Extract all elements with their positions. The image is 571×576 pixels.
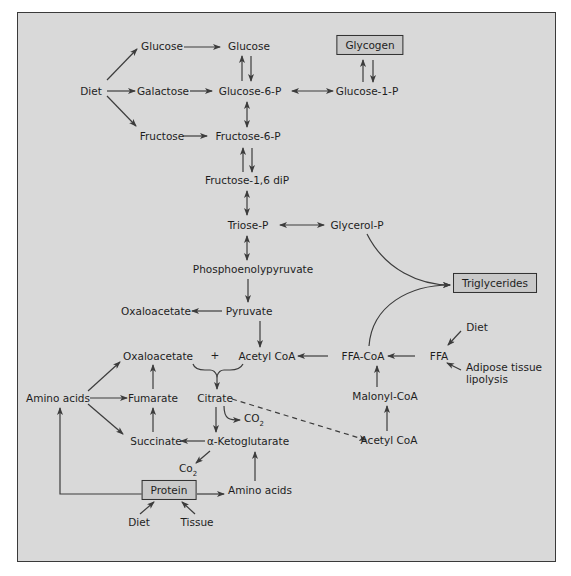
node-triose-p: Triose-P xyxy=(228,219,269,231)
arrow-diet-fructose xyxy=(107,96,136,126)
arrow-aminoacids-succinate xyxy=(88,404,123,434)
node-glycerol-p: Glycerol-P xyxy=(330,219,383,231)
node-fumarate: Fumarate xyxy=(128,392,178,404)
arrow-citrate-co2 xyxy=(224,406,240,420)
node-glycogen: Glycogen xyxy=(336,35,403,55)
node-co2-1: CO2 xyxy=(244,412,264,427)
node-glucose: Glucose xyxy=(228,40,270,52)
node-acetyl-coa-1: Acetyl CoA xyxy=(239,350,296,362)
node-tissue: Tissue xyxy=(180,516,213,528)
node-pyruvate: Pyruvate xyxy=(226,305,273,317)
co2-subscript: 2 xyxy=(193,470,197,478)
node-diet-carb: Diet xyxy=(80,85,102,97)
node-glucose-1-p: Glucose-1-P xyxy=(336,85,398,97)
arrow-diet-glucose xyxy=(107,49,137,80)
arrow-diet-protein xyxy=(140,502,154,514)
node-triglycerides: Triglycerides xyxy=(453,273,537,293)
node-succinate: Succinate xyxy=(130,435,181,447)
node-malonyl-coa: Malonyl-CoA xyxy=(352,390,417,402)
node-oxaloacetate-2: Oxaloacetate xyxy=(123,350,193,362)
arrow-glycerolp-triglycerides xyxy=(367,234,450,285)
node-fructose: Fructose xyxy=(140,130,185,142)
co2-subscript: 2 xyxy=(260,420,264,428)
co2-label: CO xyxy=(244,412,260,424)
node-adipose-lipolysis: Adipose tissue lipolysis xyxy=(466,361,542,385)
arrow-protein-aminoacids-left xyxy=(60,408,144,494)
node-glucose-6-p: Glucose-6-P xyxy=(219,85,281,97)
node-alpha-ketoglutarate: α-Ketoglutarate xyxy=(207,435,289,447)
co2-label: Co xyxy=(179,462,193,474)
node-protein: Protein xyxy=(142,480,197,500)
plus-sign: + xyxy=(211,349,220,361)
node-fructose-1-6-dip: Fructose-1,6 diP xyxy=(205,174,289,186)
node-oxaloacetate-1: Oxaloacetate xyxy=(121,305,191,317)
node-citrate: Citrate xyxy=(197,392,233,404)
node-co2-2: Co2 xyxy=(179,462,197,477)
arrow-ffacoa-triglycerides xyxy=(369,285,450,346)
node-ffa-coa: FFA-CoA xyxy=(342,350,385,362)
arrow-aminoacids-oxaloacetate xyxy=(88,362,120,391)
node-glucose-diet: Glucose xyxy=(141,40,183,52)
arrow-diet-ffa xyxy=(448,331,461,345)
node-acetyl-coa-2: Acetyl CoA xyxy=(361,434,418,446)
node-diet-protein: Diet xyxy=(128,516,150,528)
arrow-akg-co2 xyxy=(196,451,210,463)
node-galactose: Galactose xyxy=(137,85,189,97)
brace-combine xyxy=(193,364,243,376)
node-amino-acids-1: Amino acids xyxy=(26,392,90,404)
node-ffa: FFA xyxy=(430,350,448,362)
node-phosphoenolpyruvate: Phosphoenolypyruvate xyxy=(193,263,313,275)
node-diet-fat: Diet xyxy=(466,321,488,333)
node-amino-acids-2: Amino acids xyxy=(228,484,292,496)
node-fructose-6-p: Fructose-6-P xyxy=(215,130,280,142)
arrow-adipose-ffa xyxy=(447,363,461,370)
arrow-tissue-protein xyxy=(182,502,195,514)
